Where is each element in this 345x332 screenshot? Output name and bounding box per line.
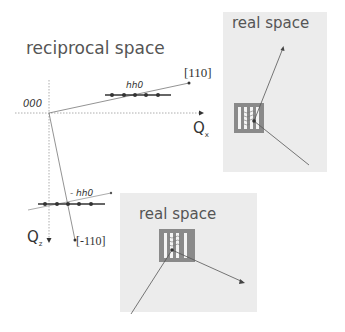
qx-label: Qx — [193, 118, 209, 139]
qx-letter: Q — [193, 119, 205, 137]
qx-axis — [15, 111, 204, 116]
vector-m110 — [49, 113, 77, 242]
vector-110-label: [110] — [184, 65, 212, 81]
grating-bottom — [131, 229, 245, 314]
origin-label: 000 — [23, 98, 42, 109]
qz-letter: Q — [27, 228, 39, 246]
qz-label: Qz — [27, 227, 43, 248]
vector-110 — [49, 82, 191, 114]
diagram-canvas — [0, 0, 345, 332]
qx-subscript: x — [205, 131, 209, 139]
rod-hh0-label: hh0 — [126, 80, 143, 90]
vector-m110-label: [-110] — [76, 234, 106, 249]
qz-axis — [47, 80, 52, 243]
grating-top — [234, 46, 309, 165]
rod-mhh0-label: - hh0 — [70, 188, 93, 198]
qz-subscript: z — [39, 240, 43, 248]
